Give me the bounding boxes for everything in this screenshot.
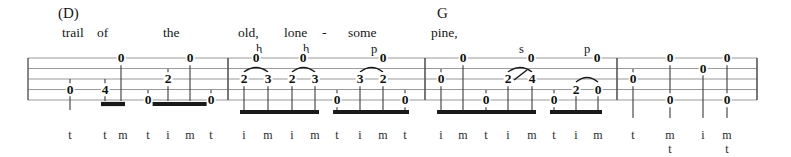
fret-number: 0 xyxy=(66,83,75,97)
fingering-label: t xyxy=(484,129,487,141)
fingering-label: m xyxy=(722,129,731,141)
lyric-word: of xyxy=(97,26,108,40)
fret-number: 0 xyxy=(666,51,675,65)
fret-number: 0 xyxy=(252,51,261,65)
fingering-label: t xyxy=(725,143,728,155)
fret-number: 0 xyxy=(207,93,216,107)
fret-number: 3 xyxy=(311,72,320,86)
fingering-label: t xyxy=(335,129,338,141)
fingering-label: i xyxy=(439,129,442,141)
fret-number: 0 xyxy=(401,93,410,107)
technique-marker-s: s xyxy=(519,43,524,56)
lyric-word: pine, xyxy=(431,26,458,40)
technique-marker-p: p xyxy=(371,43,377,56)
fingering-label: t xyxy=(103,129,106,141)
chord-label: (D) xyxy=(58,6,79,21)
fret-number: 0 xyxy=(459,51,468,65)
fret-number: 0 xyxy=(482,93,491,107)
lyric-word: lone xyxy=(284,26,307,40)
fingering-label: i xyxy=(290,129,293,141)
lyric-word: some xyxy=(348,26,377,40)
chord-label: G xyxy=(437,6,448,21)
fret-number: 0 xyxy=(117,51,126,65)
fingering-label: t xyxy=(209,129,212,141)
fret-number: 0 xyxy=(699,62,708,76)
fret-number: 3 xyxy=(264,72,273,86)
fingering-label: m xyxy=(310,129,319,141)
fret-number: 2 xyxy=(572,83,581,97)
fingering-label: i xyxy=(701,129,704,141)
fingering-label: t xyxy=(146,129,149,141)
fingering-label: m xyxy=(185,129,194,141)
fingering-label: m xyxy=(118,129,127,141)
fret-number: 0 xyxy=(144,93,153,107)
fret-number: 2 xyxy=(164,72,173,86)
lyric-word: the xyxy=(163,26,180,40)
fingering-label: t xyxy=(631,129,634,141)
fingering-label: i xyxy=(242,129,245,141)
tablature-sheet: (D)Gtrailoftheold,lone-somepine,hhpspttm… xyxy=(0,0,791,157)
lyric-word: trail xyxy=(62,26,84,40)
fret-number: 2 xyxy=(288,72,297,86)
lyric-word: - xyxy=(322,26,327,40)
fingering-label: i xyxy=(506,129,509,141)
fret-number: 0 xyxy=(333,93,342,107)
fingering-label: m xyxy=(378,129,387,141)
fret-number: 0 xyxy=(723,93,732,107)
fingering-label: m xyxy=(263,129,272,141)
technique-marker-p: p xyxy=(584,43,590,56)
fret-number: 0 xyxy=(550,93,559,107)
fret-number: 0 xyxy=(527,51,536,65)
fret-number: 2 xyxy=(504,72,513,86)
lyric-word: old, xyxy=(238,26,259,40)
fret-number: 3 xyxy=(356,72,365,86)
fret-number: 0 xyxy=(593,51,602,65)
fingering-label: t xyxy=(552,129,555,141)
fingering-label: t xyxy=(68,129,71,141)
fret-number: 0 xyxy=(666,93,675,107)
fingering-label: m xyxy=(665,129,674,141)
fret-number: 0 xyxy=(723,51,732,65)
fret-number: 2 xyxy=(379,72,388,86)
fingering-label: m xyxy=(458,129,467,141)
fret-number: 0 xyxy=(594,83,603,97)
fret-number: 0 xyxy=(629,72,638,86)
fingering-label: m xyxy=(527,129,536,141)
fret-number: 0 xyxy=(186,51,195,65)
fingering-label: i xyxy=(574,129,577,141)
fingering-label: m xyxy=(593,129,602,141)
fingering-label: i xyxy=(358,129,361,141)
fret-number: 4 xyxy=(101,83,110,97)
fret-number: 0 xyxy=(299,51,308,65)
fret-number: 4 xyxy=(528,72,537,86)
fingering-label: t xyxy=(668,143,671,155)
fingering-label: t xyxy=(403,129,406,141)
fret-number: 0 xyxy=(437,72,446,86)
fret-number: 2 xyxy=(240,72,249,86)
fret-number: 0 xyxy=(379,51,388,65)
fingering-label: i xyxy=(166,129,169,141)
